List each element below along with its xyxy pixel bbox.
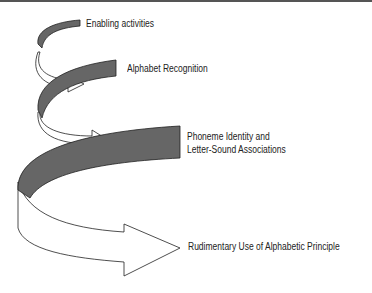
stage-3-coil <box>18 126 180 276</box>
stage-label-enabling-activities: Enabling activities <box>86 18 154 30</box>
stage-label-rudimentary-use: Rudimentary Use of Alphabetic Principle <box>188 241 340 253</box>
stage-label-phoneme-line2: Letter-Sound Associations <box>187 144 286 156</box>
stage-label-phoneme-line1: Phoneme Identity and <box>187 131 270 143</box>
stage-label-alphabet-recognition: Alphabet Recognition <box>127 63 208 75</box>
